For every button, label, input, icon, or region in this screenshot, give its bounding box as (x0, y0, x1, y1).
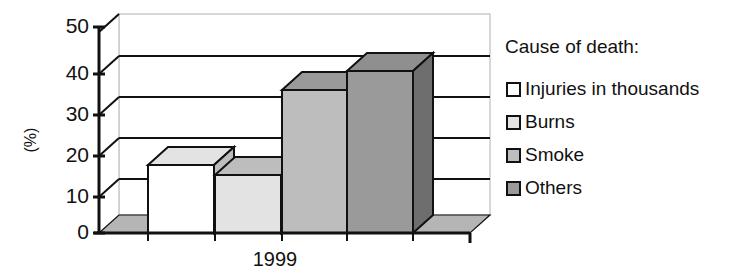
bar-others[interactable] (347, 53, 433, 233)
legend-label-smoke: Smoke (525, 144, 584, 165)
legend-swatch-injuries-in-thousands (507, 83, 520, 96)
bar-chart-svg: 50 40 30 20 10 0 (%) 1999 Cause of death… (0, 0, 741, 276)
legend-swatch-burns (507, 116, 520, 129)
y-tick-label-30: 30 (66, 102, 89, 125)
y-tick-label-40: 40 (66, 61, 89, 84)
y-tick-label-0: 0 (77, 220, 89, 243)
legend-label-injuries-in-thousands: Injuries in thousands (525, 78, 699, 99)
y-tick-label-50: 50 (66, 14, 89, 37)
y-axis-title: (%) (22, 128, 39, 153)
legend-swatch-others (507, 182, 520, 195)
y-tick-label-20: 20 (66, 143, 89, 166)
y-axis-tick-labels: 50 40 30 20 10 0 (66, 14, 89, 243)
legend-label-burns: Burns (525, 111, 575, 132)
plot-left-wall (99, 14, 119, 233)
bar-others-side-face (413, 53, 433, 233)
bar-injuries-front-face (148, 165, 214, 233)
legend-label-others: Others (525, 177, 582, 198)
bar-smoke-front-face (282, 90, 348, 233)
legend: Cause of death: Injuries in thousands Bu… (505, 36, 699, 198)
y-tick-label-10: 10 (66, 184, 89, 207)
legend-item-smoke[interactable]: Smoke (507, 144, 584, 165)
legend-item-injuries-in-thousands[interactable]: Injuries in thousands (507, 78, 699, 99)
legend-title: Cause of death: (505, 36, 639, 57)
chart-container: 50 40 30 20 10 0 (%) 1999 Cause of death… (0, 0, 741, 276)
x-axis-category-label: 1999 (253, 248, 298, 270)
bar-burns-front-face (215, 175, 281, 233)
bar-others-front-face (347, 71, 413, 233)
legend-swatch-smoke (507, 149, 520, 162)
legend-item-others[interactable]: Others (507, 177, 582, 198)
legend-item-burns[interactable]: Burns (507, 111, 575, 132)
